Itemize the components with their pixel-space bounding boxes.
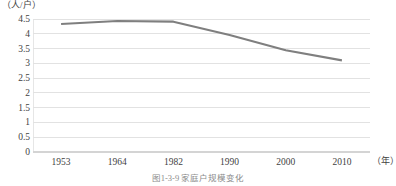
x-axis-tick-label: 1964 xyxy=(94,156,140,168)
series-polyline xyxy=(61,21,342,60)
y-axis-tick-label: 1.5 xyxy=(2,103,30,113)
y-axis-tick-label: 4 xyxy=(2,29,30,39)
plot-area xyxy=(33,19,370,152)
x-axis-tick-labels: 195319641982199020002010 xyxy=(33,156,370,169)
y-axis-tick-label: 2 xyxy=(2,88,30,98)
y-axis-tick-label: 0 xyxy=(2,147,30,157)
y-axis-tick-label: 4.5 xyxy=(2,14,30,24)
y-axis-unit-label: （人/户） xyxy=(2,0,41,11)
y-axis-tick-label: 0.5 xyxy=(2,132,30,142)
figure-caption: 图1-3-9 家庭户规模变化 xyxy=(0,172,396,184)
x-axis-tick-label: 1982 xyxy=(150,156,196,168)
y-axis-tick-labels: 00.511.522.533.544.5 xyxy=(0,19,30,152)
y-axis-tick-label: 3.5 xyxy=(2,44,30,54)
y-axis-tick-label: 2.5 xyxy=(2,73,30,83)
x-axis-tick-label: 2010 xyxy=(319,156,365,168)
x-axis-tick-label: 2000 xyxy=(263,156,309,168)
y-axis-tick-label: 1 xyxy=(2,117,30,127)
x-axis-unit-label: （年） xyxy=(372,155,396,168)
figure-container: （人/户） 00.511.522.533.544.5 1953196419821… xyxy=(0,0,396,186)
x-axis-tick-label: 1990 xyxy=(207,156,253,168)
x-axis-tick-label: 1953 xyxy=(38,156,84,168)
line-series xyxy=(33,19,370,152)
y-axis-tick-label: 3 xyxy=(2,58,30,68)
